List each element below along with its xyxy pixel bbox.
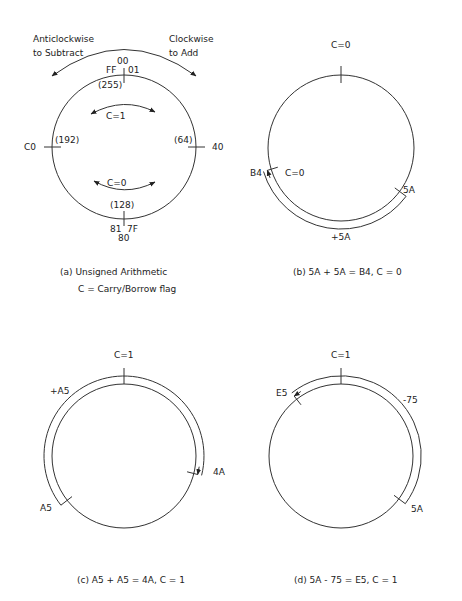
start-label: 5A bbox=[411, 504, 424, 514]
start-label: 5A bbox=[403, 185, 416, 195]
label-128: (128) bbox=[110, 200, 134, 210]
panel-c: C=1 +A5 4A A5 (c) A5 + A5 = 4A, C = 1 bbox=[40, 350, 226, 585]
subtract-label: to Subtract bbox=[33, 48, 84, 58]
label-40: 40 bbox=[212, 142, 224, 152]
label-255: (255) bbox=[98, 80, 122, 90]
band-outer-arc bbox=[292, 376, 421, 504]
operation-label: -75 bbox=[403, 395, 418, 405]
anticlockwise-label: Anticlockwise bbox=[33, 34, 95, 44]
operation-band bbox=[292, 376, 421, 504]
arrow-head bbox=[198, 467, 200, 475]
number-circle bbox=[52, 384, 196, 528]
clockwise-label: Clockwise bbox=[169, 34, 214, 44]
add-label: to Add bbox=[169, 48, 198, 58]
top-flag: C=1 bbox=[331, 350, 351, 360]
label-80: 80 bbox=[118, 233, 130, 243]
end-label: B4 bbox=[250, 168, 262, 178]
label-00: 00 bbox=[117, 56, 129, 66]
start-label: A5 bbox=[40, 503, 52, 513]
label-01: 01 bbox=[128, 65, 139, 75]
number-circle bbox=[52, 75, 196, 219]
number-circle bbox=[268, 75, 414, 221]
operation-label: +5A bbox=[331, 232, 351, 242]
label-c0: C0 bbox=[24, 142, 36, 152]
end-label: E5 bbox=[276, 388, 287, 398]
end-flag: C=0 bbox=[285, 168, 305, 178]
upper-flag: C=1 bbox=[106, 111, 126, 121]
arrow-head bbox=[267, 170, 270, 178]
label-ff: FF bbox=[106, 65, 116, 75]
end-tick bbox=[267, 167, 278, 170]
caption-d: (d) 5A - 75 = E5, C = 1 bbox=[294, 575, 398, 585]
top-flag: C=0 bbox=[331, 40, 351, 50]
end-label: 4A bbox=[213, 467, 226, 477]
subcaption-a: C = Carry/Borrow flag bbox=[78, 284, 176, 294]
caption-a: (a) Unsigned Arithmetic bbox=[60, 267, 167, 277]
lower-flag: C=0 bbox=[107, 178, 127, 188]
caption-b: (b) 5A + 5A = B4, C = 0 bbox=[293, 267, 402, 277]
label-192: (192) bbox=[55, 135, 79, 145]
operation-label: +A5 bbox=[50, 386, 69, 396]
panel-a: Anticlockwise to Subtract Clockwise to A… bbox=[24, 34, 224, 294]
top-flag: C=1 bbox=[114, 350, 134, 360]
panel-b: C=0 5A B4 C=0 +5A (b) 5A + 5A = B4, C = … bbox=[250, 40, 416, 277]
label-64: (64) bbox=[174, 135, 192, 145]
number-circle bbox=[269, 384, 413, 528]
arrow-head bbox=[294, 392, 301, 397]
diagram-canvas: Anticlockwise to Subtract Clockwise to A… bbox=[0, 0, 462, 601]
panel-d: C=1 E5 -75 5A (d) 5A - 75 = E5, C = 1 bbox=[269, 350, 424, 585]
caption-c: (c) A5 + A5 = 4A, C = 1 bbox=[77, 575, 185, 585]
end-tick bbox=[187, 472, 198, 475]
